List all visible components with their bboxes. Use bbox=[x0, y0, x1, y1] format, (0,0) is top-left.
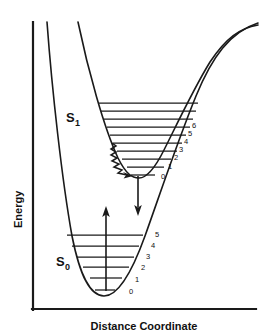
s0-state-label-subscript: 0 bbox=[65, 262, 70, 272]
s0-level-number: 3 bbox=[146, 252, 150, 261]
s0-level-number: 5 bbox=[155, 230, 159, 239]
s1-level-number: 1 bbox=[168, 162, 172, 171]
s0-level-number: 2 bbox=[141, 263, 145, 272]
potential-energy-diagram: 6 5 4 3 2 1 0 5 4 3 2 1 0 bbox=[0, 0, 265, 336]
s1-state-label-subscript: 1 bbox=[75, 118, 80, 128]
s0-state-label: S bbox=[56, 254, 65, 269]
s1-state-label: S bbox=[66, 110, 75, 125]
state-labels: S 1 S 0 bbox=[56, 110, 80, 272]
y-axis-label: Energy bbox=[12, 190, 24, 228]
diagram-canvas: 6 5 4 3 2 1 0 5 4 3 2 1 0 bbox=[0, 0, 265, 336]
s1-level-number: 5 bbox=[188, 129, 192, 138]
x-axis-label: Distance Coordinate bbox=[91, 320, 198, 332]
s1-level-number: 0 bbox=[161, 172, 165, 181]
s1-potential-curve bbox=[78, 22, 258, 178]
s1-level-number: 3 bbox=[179, 145, 183, 154]
s1-potential-curve-group bbox=[78, 22, 258, 178]
s1-level-number: 2 bbox=[174, 153, 178, 162]
s1-level-number: 6 bbox=[192, 121, 196, 130]
s0-level-number: 1 bbox=[135, 275, 139, 284]
s0-level-number: 4 bbox=[151, 241, 155, 250]
s1-level-number: 4 bbox=[184, 137, 188, 146]
s0-level-number: 0 bbox=[129, 287, 133, 296]
emission-arrow bbox=[134, 176, 142, 216]
